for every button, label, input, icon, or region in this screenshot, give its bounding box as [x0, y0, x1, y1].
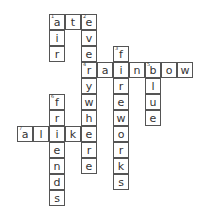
cell-letter: o — [114, 127, 128, 142]
cell-letter: w — [114, 111, 128, 126]
crossword-cell[interactable]: w — [113, 110, 129, 126]
crossword-cell[interactable]: l — [33, 126, 49, 142]
cell-letter: w — [178, 63, 192, 78]
crossword-cell[interactable]: r — [49, 46, 65, 62]
crossword-cell[interactable]: r — [49, 110, 65, 126]
cell-letter: s — [50, 191, 64, 206]
crossword-cell[interactable]: h — [81, 110, 97, 126]
cell-letter: l — [34, 127, 48, 142]
cell-letter: n — [130, 63, 144, 78]
cell-letter: r — [114, 79, 128, 94]
cell-letter: u — [146, 95, 160, 110]
crossword-cell[interactable]: e — [145, 110, 161, 126]
crossword-cell[interactable]: t — [65, 14, 81, 30]
crossword-cell[interactable]: k — [65, 126, 81, 142]
cell-letter: e — [146, 111, 160, 126]
clue-number: 1 — [51, 13, 54, 20]
cell-letter: e — [82, 159, 96, 174]
cell-letter: r — [114, 143, 128, 158]
crossword-cell[interactable]: i — [113, 62, 129, 78]
crossword-cell[interactable]: e — [49, 142, 65, 158]
clue-number: 2 — [83, 13, 86, 20]
cell-letter: e — [50, 143, 64, 158]
crossword-cell[interactable]: l — [145, 78, 161, 94]
cell-letter: n — [50, 159, 64, 174]
cell-letter: k — [114, 159, 128, 174]
cell-letter: s — [114, 175, 128, 190]
crossword-cell[interactable]: s — [49, 190, 65, 206]
crossword-cell[interactable]: e — [81, 126, 97, 142]
crossword-cell[interactable]: 2e — [81, 14, 97, 30]
cell-letter: a — [98, 63, 112, 78]
crossword-cell[interactable]: n — [129, 62, 145, 78]
cell-letter: r — [50, 47, 64, 62]
crossword-cell[interactable]: 1a — [49, 14, 65, 30]
clue-number: 4 — [83, 61, 86, 68]
cell-letter: l — [146, 79, 160, 94]
crossword-cell[interactable]: v — [81, 30, 97, 46]
cell-letter: r — [82, 143, 96, 158]
cell-letter: o — [162, 63, 176, 78]
crossword-cell[interactable]: o — [161, 62, 177, 78]
cell-letter: w — [82, 95, 96, 110]
crossword-cell[interactable]: 7a — [17, 126, 33, 142]
crossword-cell[interactable]: y — [81, 78, 97, 94]
cell-letter: y — [82, 79, 96, 94]
crossword-cell[interactable]: i — [49, 126, 65, 142]
cell-letter: r — [50, 111, 64, 126]
cell-letter: i — [114, 63, 128, 78]
crossword-cell[interactable]: u — [145, 94, 161, 110]
crossword-grid: 1at2eirve4rywhere3fireworksan5bowlue6fri… — [0, 0, 205, 222]
crossword-cell[interactable]: w — [81, 94, 97, 110]
crossword-cell[interactable]: w — [177, 62, 193, 78]
cell-letter: v — [82, 31, 96, 46]
crossword-cell[interactable]: o — [113, 126, 129, 142]
cell-letter: i — [50, 31, 64, 46]
clue-number: 6 — [51, 93, 54, 100]
crossword-cell[interactable]: r — [81, 142, 97, 158]
cell-letter: t — [66, 15, 80, 30]
cell-letter: k — [66, 127, 80, 142]
crossword-cell[interactable]: d — [49, 174, 65, 190]
crossword-cell[interactable]: a — [97, 62, 113, 78]
crossword-cell[interactable]: i — [49, 30, 65, 46]
clue-number: 7 — [19, 125, 22, 132]
crossword-cell[interactable]: r — [113, 78, 129, 94]
crossword-cell[interactable]: e — [113, 94, 129, 110]
crossword-cell[interactable]: r — [113, 142, 129, 158]
clue-number: 3 — [115, 45, 118, 52]
crossword-cell[interactable]: 4r — [81, 62, 97, 78]
crossword-cell[interactable]: e — [81, 46, 97, 62]
crossword-cell[interactable]: n — [49, 158, 65, 174]
crossword-cell[interactable]: 3f — [113, 46, 129, 62]
crossword-cell[interactable]: e — [81, 158, 97, 174]
cell-letter: h — [82, 111, 96, 126]
cell-letter: i — [50, 127, 64, 142]
crossword-cell[interactable]: 6f — [49, 94, 65, 110]
cell-letter: d — [50, 175, 64, 190]
crossword-cell[interactable]: 5b — [145, 62, 161, 78]
clue-number: 5 — [147, 61, 150, 68]
crossword-cell[interactable]: s — [113, 174, 129, 190]
cell-letter: e — [82, 47, 96, 62]
cell-letter: e — [82, 127, 96, 142]
crossword-cell[interactable]: k — [113, 158, 129, 174]
cell-letter: e — [114, 95, 128, 110]
